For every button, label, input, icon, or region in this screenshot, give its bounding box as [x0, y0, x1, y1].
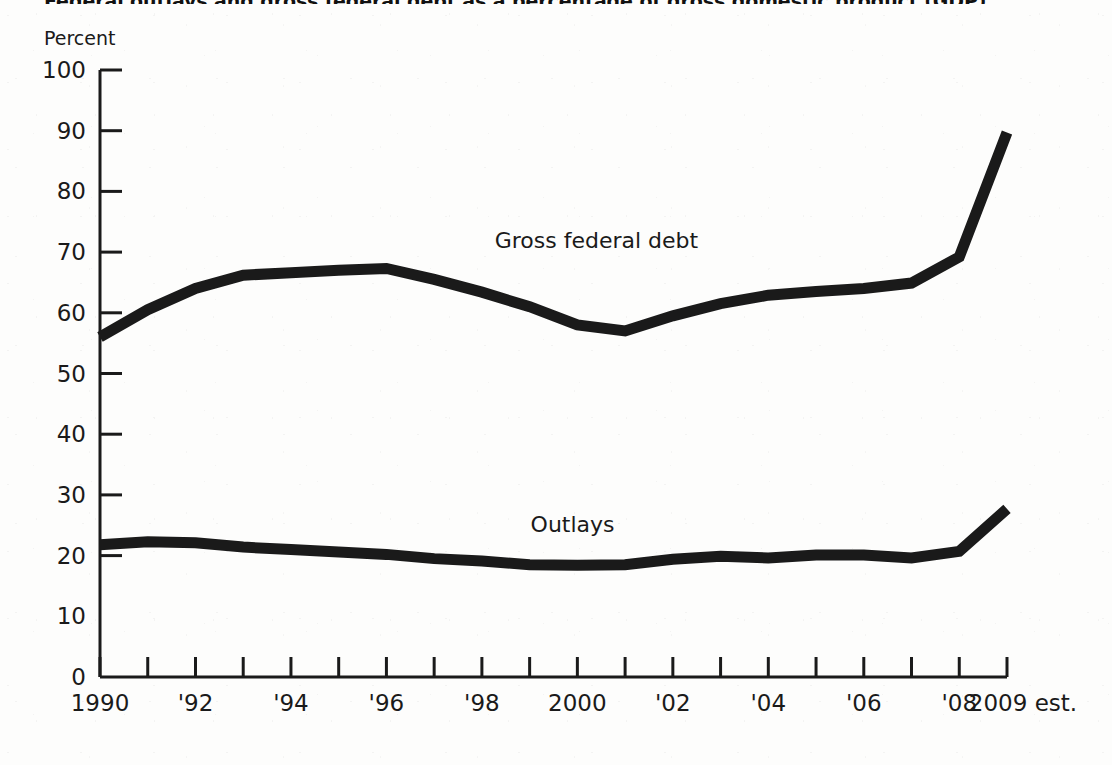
x-tick-label: '98: [464, 690, 500, 716]
series-label-gross-federal-debt: Gross federal debt: [495, 227, 699, 252]
y-tick-label: 70: [0, 239, 86, 265]
x-tick-label: 1990: [71, 690, 130, 716]
y-tick-label: 0: [0, 664, 86, 690]
y-tick-label: 100: [0, 57, 86, 83]
y-tick-label: 90: [0, 118, 86, 144]
y-tick-label: 60: [0, 300, 86, 326]
x-tick-label: '02: [655, 690, 691, 716]
y-tick-label: 30: [0, 482, 86, 508]
x-tick-label: '04: [751, 690, 787, 716]
plot-area: [0, 0, 1112, 765]
x-tick-label: '06: [846, 690, 882, 716]
x-tick-label: 2000: [548, 690, 607, 716]
x-tick-label: '96: [369, 690, 405, 716]
y-tick-label: 50: [0, 361, 86, 387]
series-label-outlays: Outlays: [531, 512, 615, 537]
x-tick-label: '94: [273, 690, 309, 716]
axes-group: [100, 70, 1007, 677]
y-tick-label: 20: [0, 543, 86, 569]
series-group: [100, 133, 1007, 566]
chart-figure: Federal outlays and gross federal debt a…: [0, 0, 1112, 765]
x-tick-label: '92: [178, 690, 214, 716]
x-tick-label: 2009 est.: [969, 690, 1077, 716]
y-tick-label: 10: [0, 603, 86, 629]
y-tick-label: 40: [0, 421, 86, 447]
y-tick-label: 80: [0, 178, 86, 204]
